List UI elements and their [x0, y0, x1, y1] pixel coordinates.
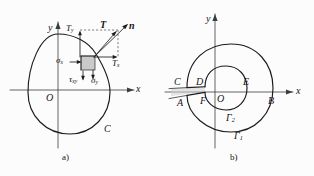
curve-label-c: C [104, 124, 111, 134]
axis-label-x-a: x [136, 84, 140, 94]
Ty-component-arrow [78, 31, 82, 58]
caption-a: a) [62, 152, 69, 162]
stress-element [81, 56, 95, 70]
axis-label-y-a: y [48, 23, 52, 33]
point-label-e: E [243, 77, 249, 87]
tau-xy-label: τxy [69, 75, 77, 85]
panel-b-graphics [157, 0, 314, 176]
y-axis-a [55, 22, 60, 148]
sigma-y-label: σy [91, 76, 98, 86]
caption-b: b) [230, 152, 238, 162]
sigma-x-arrow [70, 60, 82, 64]
origin-label-a: O [46, 93, 53, 103]
figure-canvas: y x O C T n Ty Tx σx σy τxy a) [0, 0, 314, 176]
point-label-c: C [174, 77, 181, 87]
traction-y-label: Ty [66, 24, 74, 34]
traction-x-label: Tx [112, 59, 120, 69]
point-label-d: D [196, 77, 203, 87]
normal-label-n: n [129, 21, 135, 31]
contour-gamma-2 [205, 66, 247, 110]
point-label-b: B [268, 96, 274, 106]
origin-label-b: O [217, 94, 224, 104]
traction-label-T: T [100, 20, 106, 30]
axis-label-x-b: x [296, 86, 300, 96]
point-label-f: F [200, 96, 206, 106]
tau-xy-arrow [81, 71, 85, 81]
sigma-x-label: σx [56, 56, 63, 66]
contour-label-gamma-1: Γ1 [234, 131, 243, 142]
panel-a: y x O C T n Ty Tx σx σy τxy a) [0, 0, 157, 176]
y-axis-b [212, 14, 217, 148]
panel-b: y x O C D E A F B Γ2 Γ1 b) [157, 0, 314, 176]
point-label-a: A [177, 98, 183, 108]
axis-label-y-b: y [206, 14, 210, 24]
contour-label-gamma-2: Γ2 [226, 113, 235, 124]
